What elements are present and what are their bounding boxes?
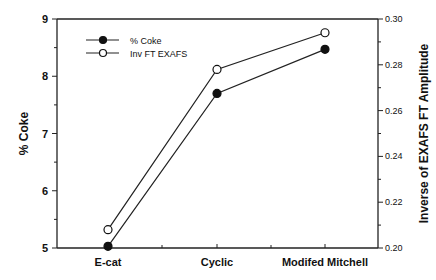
x-tick-label: Modifed Mitchell — [282, 256, 368, 268]
x-tick-label: E-cat — [95, 256, 122, 268]
legend: % CokeInv FT EXAFS — [86, 36, 187, 59]
axes: 567890.200.220.240.260.280.30E-catCyclic… — [17, 13, 431, 268]
legend-label: Inv FT EXAFS — [130, 49, 187, 59]
data-point — [213, 65, 221, 73]
y2-axis-title: Inverse of EXAFS FT Amplitude — [417, 43, 431, 223]
data-point — [104, 226, 112, 234]
y-tick-label: 8 — [42, 70, 48, 82]
legend-label: % Coke — [130, 36, 162, 46]
y-tick-label: 5 — [42, 242, 48, 254]
series — [104, 29, 329, 251]
series-line — [108, 49, 325, 246]
data-point — [321, 29, 329, 37]
y2-tick-label: 0.30 — [385, 14, 403, 24]
legend-marker — [100, 37, 107, 44]
chart: 567890.200.220.240.260.280.30E-catCyclic… — [0, 0, 436, 280]
y-tick-label: 6 — [42, 185, 48, 197]
x-tick-label: Cyclic — [201, 256, 233, 268]
y2-tick-label: 0.28 — [385, 60, 403, 70]
data-point — [213, 89, 221, 97]
y2-tick-label: 0.22 — [385, 197, 403, 207]
y2-tick-label: 0.24 — [385, 151, 403, 161]
y-tick-label: 9 — [42, 13, 48, 25]
y-tick-label: 7 — [42, 128, 48, 140]
y-axis-title: % Coke — [17, 112, 31, 156]
legend-marker — [100, 50, 107, 57]
data-point — [104, 242, 112, 250]
y2-tick-label: 0.26 — [385, 106, 403, 116]
data-point — [321, 45, 329, 53]
y2-tick-label: 0.20 — [385, 243, 403, 253]
